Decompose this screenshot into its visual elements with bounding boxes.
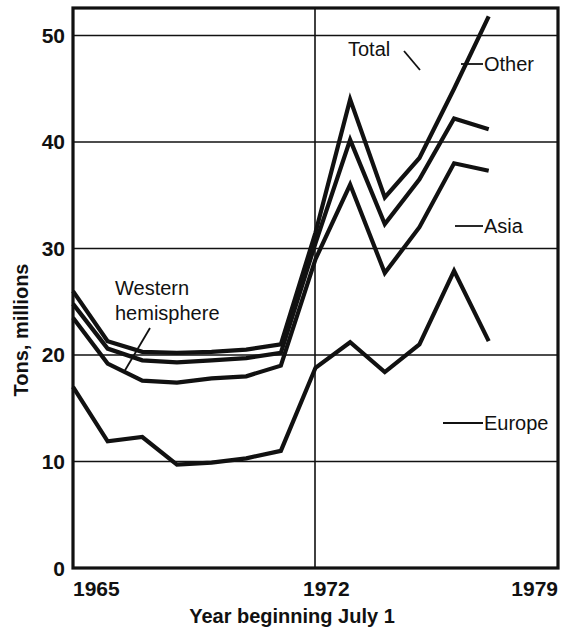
- y-tick-0: 0: [53, 557, 65, 580]
- legend-europe[interactable]: Europe: [443, 412, 549, 434]
- y-tick-labels: 50 40 30 20 10 0: [42, 24, 65, 580]
- y-axis-title: Tons, millions: [10, 264, 32, 397]
- y-tick-40: 40: [42, 130, 65, 153]
- total-annotation: Total: [348, 38, 420, 70]
- legend-other[interactable]: Other: [461, 53, 534, 75]
- legend-europe-label: Europe: [484, 412, 549, 434]
- western-hemisphere-label-line2: hemisphere: [115, 302, 220, 324]
- x-axis-title: Year beginning July 1: [189, 605, 395, 627]
- x-tick-1979: 1979: [511, 577, 558, 600]
- y-tick-30: 30: [42, 237, 65, 260]
- y-tick-20: 20: [42, 343, 65, 366]
- x-tick-labels: 1965 1972 1979: [73, 577, 558, 600]
- y-tick-50: 50: [42, 24, 65, 47]
- legend-other-label: Other: [484, 53, 534, 75]
- chart-container: 50 40 30 20 10 0 1965 1972 1979 Year beg…: [0, 0, 584, 631]
- legend-asia-label: Asia: [484, 215, 524, 237]
- total-leader-line: [404, 51, 420, 70]
- y-tick-10: 10: [42, 450, 65, 473]
- series-layer: [73, 16, 489, 464]
- legend-asia[interactable]: Asia: [455, 215, 524, 237]
- total-label: Total: [348, 38, 390, 60]
- x-tick-1965: 1965: [73, 577, 120, 600]
- western-hemisphere-label-line1: Western: [115, 277, 189, 299]
- x-tick-1972: 1972: [303, 577, 350, 600]
- line-chart: 50 40 30 20 10 0 1965 1972 1979 Year beg…: [0, 0, 584, 631]
